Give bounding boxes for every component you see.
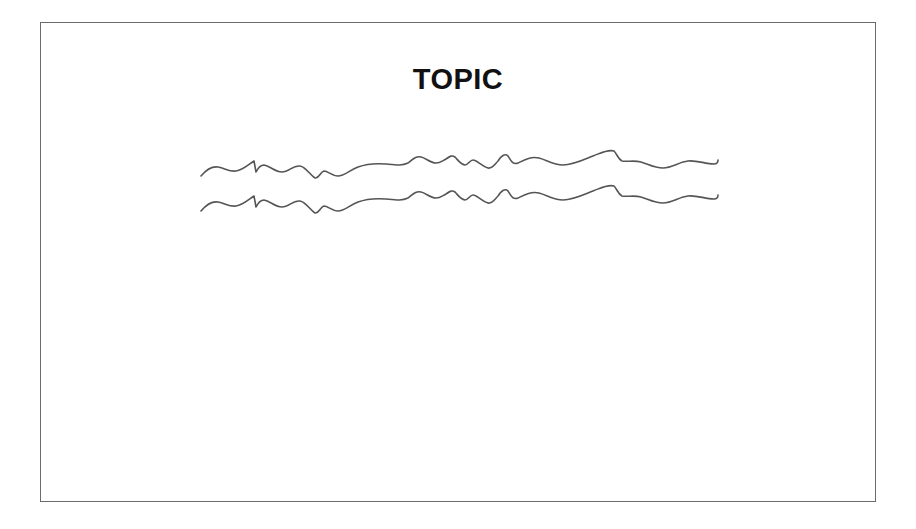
slide-frame: TOPIC bbox=[40, 22, 876, 502]
slide-title: TOPIC bbox=[41, 63, 875, 96]
